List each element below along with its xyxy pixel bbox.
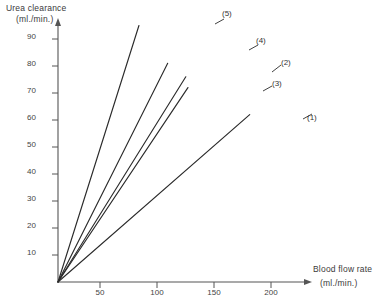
data-lines-group: [58, 26, 250, 283]
leader-line-1: [303, 114, 312, 119]
data-line-5: [58, 26, 139, 283]
y-tick-marks: [52, 39, 58, 255]
chart-plot-svg: [0, 0, 375, 303]
x-axis-arrow-icon: [304, 279, 312, 285]
x-tick-marks: [100, 282, 271, 288]
leader-lines-group: [215, 19, 312, 119]
data-line-1: [58, 115, 250, 282]
chart-figure: Urea clearance (ml./min.) Blood flow rat…: [0, 0, 375, 303]
leader-line-2: [272, 65, 281, 72]
data-line-4: [58, 63, 168, 282]
leader-line-5: [215, 19, 224, 24]
leader-line-4: [249, 45, 258, 50]
axes-group: [55, 18, 312, 285]
y-axis-arrow-icon: [55, 18, 61, 26]
leader-line-3: [263, 86, 272, 91]
data-line-2: [58, 77, 186, 282]
